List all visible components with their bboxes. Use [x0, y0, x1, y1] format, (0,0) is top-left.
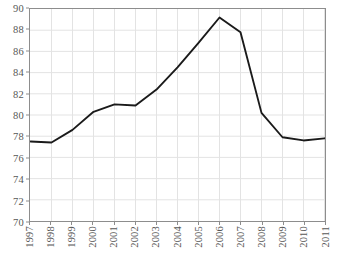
y-tick-label-74: 74 — [13, 174, 24, 185]
y-tick-label-72: 72 — [13, 195, 24, 206]
x-tick-label-2003: 2003 — [150, 226, 161, 248]
x-tickmark-2002 — [135, 222, 136, 225]
x-tick-label-2011: 2011 — [320, 226, 331, 247]
y-tick-label-80: 80 — [13, 110, 24, 121]
x-tickmark-1998 — [50, 222, 51, 225]
x-tick-label-2008: 2008 — [256, 226, 267, 248]
x-axis: 1997199819992000200120022003200420052006… — [29, 222, 326, 267]
x-tickmark-2001 — [114, 222, 115, 225]
y-tick-label-84: 84 — [13, 67, 24, 78]
x-tick-label-1997: 1997 — [24, 226, 35, 248]
y-tick-label-82: 82 — [13, 88, 24, 99]
y-axis: 7072747678808284868890 — [0, 0, 29, 230]
x-tick-label-2007: 2007 — [235, 226, 246, 248]
y-tick-label-90: 90 — [13, 3, 24, 14]
y-tick-label-86: 86 — [13, 45, 24, 56]
x-tick-label-1998: 1998 — [45, 226, 56, 248]
x-tickmark-2006 — [219, 222, 220, 225]
x-tick-label-2009: 2009 — [277, 226, 288, 248]
x-tickmark-2004 — [177, 222, 178, 225]
x-tick-label-2002: 2002 — [129, 226, 140, 248]
y-tick-label-88: 88 — [13, 24, 24, 35]
x-tick-label-2005: 2005 — [193, 226, 204, 248]
y-tick-label-78: 78 — [13, 131, 24, 142]
plot-area — [29, 8, 326, 222]
x-tickmark-1997 — [29, 222, 30, 225]
y-tick-label-70: 70 — [13, 217, 24, 228]
x-tickmark-1999 — [71, 222, 72, 225]
x-tickmark-2011 — [325, 222, 326, 225]
x-tick-label-2006: 2006 — [214, 226, 225, 248]
x-tick-label-1999: 1999 — [66, 226, 77, 248]
x-tickmark-2003 — [156, 222, 157, 225]
x-tick-label-2001: 2001 — [108, 226, 119, 248]
y-tick-label-76: 76 — [13, 152, 24, 163]
data-line-series-1 — [30, 9, 325, 221]
line-chart: 7072747678808284868890 19971998199920002… — [0, 0, 340, 267]
x-tickmark-2007 — [240, 222, 241, 225]
x-tickmark-2000 — [92, 222, 93, 225]
x-tickmark-2005 — [198, 222, 199, 225]
x-tickmark-2010 — [304, 222, 305, 225]
x-tick-label-2004: 2004 — [172, 226, 183, 248]
x-tick-label-2010: 2010 — [298, 226, 309, 248]
x-tick-label-2000: 2000 — [87, 226, 98, 248]
x-tickmark-2008 — [262, 222, 263, 225]
x-tickmark-2009 — [283, 222, 284, 225]
